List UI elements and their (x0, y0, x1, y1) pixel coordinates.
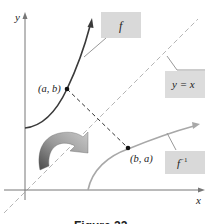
figure-caption: Figure 22 (74, 219, 128, 224)
identity-line (4, 19, 198, 213)
f-inverse-label-callout: f−1 (165, 133, 205, 174)
identity-label-callout: y = x (165, 56, 205, 98)
f-curve (25, 18, 94, 128)
f-arrowhead-icon (88, 18, 94, 28)
x-axis (4, 188, 205, 193)
point-b-a (126, 146, 131, 151)
y-axis (23, 12, 28, 200)
f-inverse-arrowhead-icon (192, 122, 200, 129)
f-label-callout: f (84, 12, 141, 57)
y-axis-arrow-icon (23, 12, 28, 19)
inverse-function-diagram: y x (a, b) (b, a) f y = x f−1 (0, 0, 210, 224)
reflection-arrow-icon (39, 132, 88, 170)
point-a-b-label: (a, b) (38, 83, 61, 95)
x-axis-label: x (195, 194, 201, 206)
y-axis-label: y (14, 11, 20, 23)
point-b-a-label: (b, a) (130, 153, 153, 165)
point-a-b (65, 87, 70, 92)
x-axis-arrow-icon (198, 188, 205, 193)
identity-label: y = x (171, 78, 195, 90)
